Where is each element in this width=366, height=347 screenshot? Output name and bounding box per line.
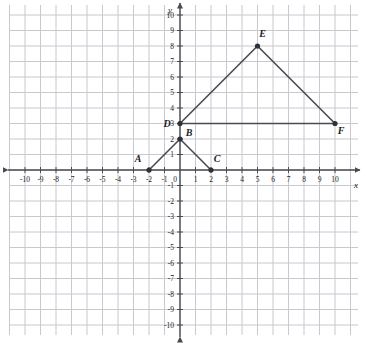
point-label-D: D — [162, 118, 170, 129]
point-D — [177, 121, 182, 126]
segment-B-C — [180, 139, 211, 170]
point-label-C: C — [214, 153, 221, 164]
point-C — [208, 167, 213, 172]
segment-E-F — [258, 46, 336, 124]
point-label-E: E — [258, 28, 266, 39]
point-label-B: B — [185, 127, 193, 138]
point-A — [146, 167, 151, 172]
coordinate-plane-figure: -10-9-8-7-6-5-4-3-2-11234567891010987654… — [0, 0, 366, 347]
segment-A-B — [149, 139, 180, 170]
point-E — [255, 43, 260, 48]
graph-layer: ABCDEF — [0, 0, 366, 347]
point-B — [177, 136, 182, 141]
segment-D-E — [180, 46, 258, 124]
point-label-F: F — [337, 125, 345, 136]
point-label-A: A — [134, 153, 142, 164]
